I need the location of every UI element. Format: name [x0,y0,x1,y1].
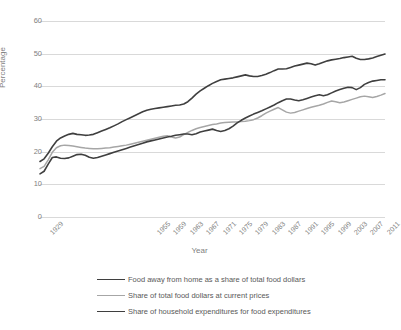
y-tick-label-50: 50 [12,50,42,58]
legend-item-2[interactable]: Share of household expenditures for food… [97,303,399,319]
series-lines [40,21,385,217]
legend-label-1: Share of total food dollars at current p… [128,291,269,300]
plot-area: 0102030405060 [40,21,385,217]
y-tick-label-20: 20 [12,148,42,156]
y-tick-label-10: 10 [12,180,42,188]
y-tick-label-60: 60 [12,17,42,25]
x-tick-label-2003: 2003 [352,220,368,236]
legend-swatch-line-icon-2 [97,311,125,312]
y-tick-label-40: 40 [12,82,42,90]
series-line-2 [40,80,385,174]
x-tick-label-1991: 1991 [303,220,319,236]
x-tick-label-1999: 1999 [336,220,352,236]
x-tick-label-1975: 1975 [237,220,253,236]
gridline-0 [40,217,385,218]
x-tick-label-2007: 2007 [369,220,385,236]
legend-swatch-line-icon-0 [97,279,125,280]
x-tick-label-1971: 1971 [221,220,237,236]
legend-swatch-line-icon-1 [97,295,125,296]
legend-item-0[interactable]: Food away from home as a share of total … [97,271,399,287]
y-tick-label-30: 30 [12,115,42,123]
chart-legend: Food away from home as a share of total … [97,271,399,319]
series-line-0 [40,54,385,161]
x-tick-label-1929: 1929 [49,220,65,236]
x-tick-label-1955: 1955 [155,220,171,236]
y-tick-label-0: 0 [12,213,42,221]
x-tick-label-1979: 1979 [254,220,270,236]
legend-label-0: Food away from home as a share of total … [128,275,305,284]
x-tick-label-2011: 2011 [385,220,401,236]
x-axis-title: Year [0,246,399,255]
x-tick-label-1963: 1963 [188,220,204,236]
x-tick-label-1959: 1959 [172,220,188,236]
legend-label-2: Share of household expenditures for food… [128,307,311,316]
x-tick-label-1995: 1995 [320,220,336,236]
y-axis-title: Percentage [0,47,7,88]
legend-item-1[interactable]: Share of total food dollars at current p… [97,287,399,303]
x-tick-label-1987: 1987 [287,220,303,236]
x-tick-label-1967: 1967 [205,220,221,236]
x-tick-label-1983: 1983 [270,220,286,236]
